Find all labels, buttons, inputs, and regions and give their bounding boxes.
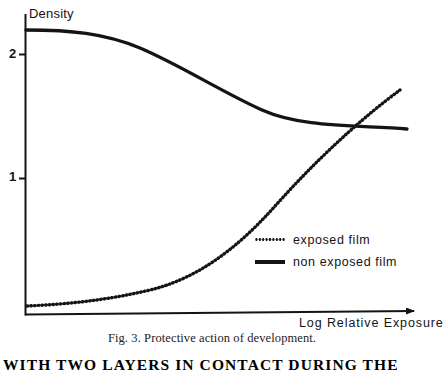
legend-label-non-exposed-film: non exposed film xyxy=(293,255,397,269)
document-heading: WITH TWO LAYERS IN CONTACT DURING THE xyxy=(3,356,399,374)
x-axis-title: Log Relative Exposure xyxy=(299,316,444,330)
curve-non-exposed-film xyxy=(26,30,407,129)
chart-svg xyxy=(0,0,424,330)
y-axis-title: Density xyxy=(29,6,74,21)
y-tick-label-1: 1 xyxy=(9,169,16,184)
x-axis-line xyxy=(25,311,414,315)
curve-exposed-film xyxy=(27,90,400,306)
legend-label-exposed-film: exposed film xyxy=(293,233,370,247)
legend-swatch-dotted-icon xyxy=(255,238,285,242)
chart-plot-area: Density 2 1 Log Relative Exposure expose… xyxy=(0,0,424,330)
legend-item-non-exposed-film: non exposed film xyxy=(255,251,420,273)
y-tick-label-2: 2 xyxy=(9,46,16,61)
chart-legend: exposed film non exposed film xyxy=(255,229,420,273)
figure-caption: Fig. 3. Protective action of development… xyxy=(0,331,424,346)
legend-item-exposed-film: exposed film xyxy=(255,229,420,251)
legend-swatch-solid-icon xyxy=(255,260,285,264)
